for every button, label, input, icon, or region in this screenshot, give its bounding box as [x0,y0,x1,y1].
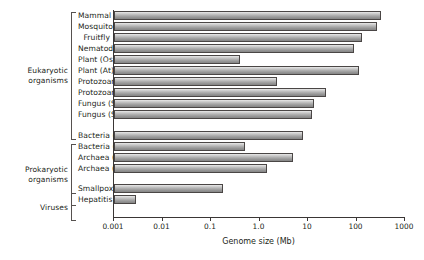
x-axis-tick [404,217,405,221]
bar [114,195,136,204]
category-label: Plant (Os) [78,55,110,64]
category-label: Hepatitis B [78,195,110,204]
group-title-eukaryotic: Eukaryotic organisms [6,66,68,85]
x-axis-tick-label: 1.0 [253,222,265,231]
bar [114,164,267,173]
group-title-prokaryotic: Prokaryotic organisms [6,165,68,184]
plot-area [113,10,404,217]
bar [114,153,293,162]
genome-size-bar-chart: Eukaryotic organisms Prokaryotic organis… [0,0,424,260]
bar [114,88,326,97]
x-axis-tick-label: 0.001 [102,222,123,231]
bar [114,99,314,108]
category-label: Bacteria (l) [78,142,110,151]
category-label: Fungus (Sp) [78,99,110,108]
category-label: Mosquito [78,22,110,31]
bracket-viruses [71,193,76,221]
x-axis-tick-label: 0.01 [153,222,169,231]
category-label: Bacteria (h) [78,131,110,140]
x-axis-tick-label: 100 [348,222,362,231]
category-label: Smallpox [78,184,110,193]
x-axis-tick [113,217,114,221]
x-axis-tick-label: 1000 [395,222,414,231]
x-axis-tick [210,217,211,221]
category-label: Archaea (h) [78,153,110,162]
group-title-viruses-line1: Viruses [6,203,68,213]
category-label: Fungus (Sc) [78,110,110,119]
group-title-prokaryotic-line2: organisms [6,175,68,185]
group-title-viruses: Viruses [6,203,68,213]
x-axis-tick [307,217,308,221]
category-label: Archaea (l) [78,164,110,173]
bar [114,77,277,86]
bar [114,131,303,140]
x-axis-tick-label: 0.1 [204,222,216,231]
bar [114,22,377,31]
category-label: Plant (At) [78,66,110,75]
x-axis-title: Genome size (Mb) [113,237,404,246]
group-title-prokaryotic-line1: Prokaryotic [6,165,68,175]
category-label: Fruitfly [78,33,110,42]
category-label: Mammal [78,11,110,20]
bar [114,110,312,119]
bracket-eukaryotic [71,12,76,140]
x-axis-tick-label: 10 [302,222,311,231]
bar [114,55,240,64]
x-axis-tick [259,217,260,221]
x-axis-tick [356,217,357,221]
bar [114,142,245,151]
bar [114,44,354,53]
bar [114,11,381,20]
category-label: Nematode [78,44,110,53]
x-axis-tick [162,217,163,221]
category-label: Protozoan (Ec) [78,77,110,86]
bar [114,66,359,75]
bar [114,33,362,42]
bar [114,184,223,193]
group-title-eukaryotic-line1: Eukaryotic [6,66,68,76]
group-title-eukaryotic-line2: organisms [6,76,68,86]
category-label: Protozoan (Pl) [78,88,110,97]
